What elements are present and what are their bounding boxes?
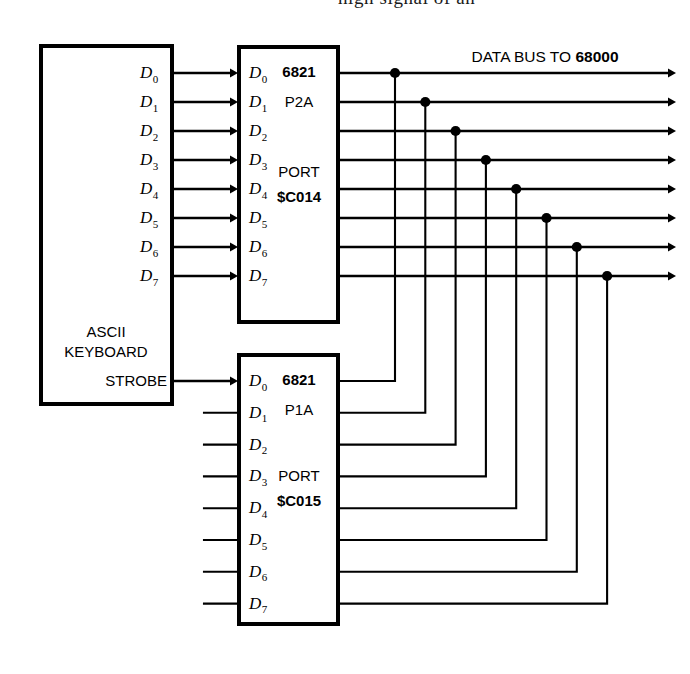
strobe-label: STROBE xyxy=(105,372,167,389)
bus-junction-dot-0 xyxy=(390,68,400,78)
data-bus-label: DATA BUS TO 68000 xyxy=(471,48,618,65)
keyboard-label-line1: ASCII xyxy=(86,323,125,340)
data-bus-arrowhead-1 xyxy=(668,97,676,106)
bus-junction-dot-6 xyxy=(572,242,582,252)
pia-upper-address: $C014 xyxy=(277,188,322,205)
pia-lower-port-word: PORT xyxy=(278,467,319,484)
data-bus-arrowhead-3 xyxy=(668,155,676,164)
keyboard-to-pia-arrowhead-2 xyxy=(230,126,238,135)
bus-branch-to-pia-lower-0 xyxy=(338,73,395,381)
keyboard-label-line2: KEYBOARD xyxy=(64,343,148,360)
keyboard-to-pia-arrowhead-7 xyxy=(230,271,238,280)
bus-junction-dot-3 xyxy=(481,155,491,165)
bus-junction-dot-4 xyxy=(511,184,521,194)
bus-branch-to-pia-lower-6 xyxy=(338,247,577,572)
keyboard-to-pia-arrowhead-4 xyxy=(230,184,238,193)
pia-upper-port-name: P2A xyxy=(285,93,313,110)
data-bus-arrowhead-0 xyxy=(668,68,676,77)
data-bus-arrowhead-4 xyxy=(668,184,676,193)
pia-lower-chip-label: 6821 xyxy=(282,371,315,388)
pia-lower-box xyxy=(239,355,338,624)
partial-text-line: high signal of an xyxy=(338,0,475,9)
bus-junction-dot-2 xyxy=(451,126,461,136)
circuit-diagram: high signal of an D0D1D2D3D4D5D6D7D0D1D2… xyxy=(0,0,690,674)
bus-junction-dot-7 xyxy=(602,271,612,281)
pia-lower-address: $C015 xyxy=(277,492,321,509)
data-bus-arrowhead-6 xyxy=(668,242,676,251)
bus-branch-to-pia-lower-3 xyxy=(338,160,486,476)
data-bus-label-target: 68000 xyxy=(575,48,618,65)
strobe-arrowhead xyxy=(230,376,238,385)
partial-page-text-fragment: high signal of an xyxy=(0,0,690,22)
bus-branch-to-pia-lower-4 xyxy=(338,189,516,508)
bus-branch-to-pia-lower-1 xyxy=(338,102,425,413)
bus-junction-dot-5 xyxy=(541,213,551,223)
data-bus-arrowhead-2 xyxy=(668,126,676,135)
keyboard-to-pia-arrowhead-5 xyxy=(230,213,238,222)
schematic-svg: D0D1D2D3D4D5D6D7D0D1D2D3D4D5D6D7D0D1D2D3… xyxy=(0,0,690,674)
bus-branch-to-pia-lower-7 xyxy=(338,276,607,604)
keyboard-to-pia-arrowhead-3 xyxy=(230,155,238,164)
data-bus-arrowhead-5 xyxy=(668,213,676,222)
pia-upper-chip-label: 6821 xyxy=(282,63,315,80)
keyboard-to-pia-arrowhead-1 xyxy=(230,97,238,106)
bus-branch-to-pia-lower-2 xyxy=(338,131,456,445)
pia-upper-port-word: PORT xyxy=(278,163,319,180)
keyboard-to-pia-arrowhead-0 xyxy=(230,68,238,77)
keyboard-to-pia-arrowhead-6 xyxy=(230,242,238,251)
bus-junction-dot-1 xyxy=(420,97,430,107)
data-bus-arrowhead-7 xyxy=(668,271,676,280)
pia-lower-port-name: P1A xyxy=(285,401,313,418)
data-bus-label-prefix: DATA BUS TO xyxy=(471,48,575,65)
